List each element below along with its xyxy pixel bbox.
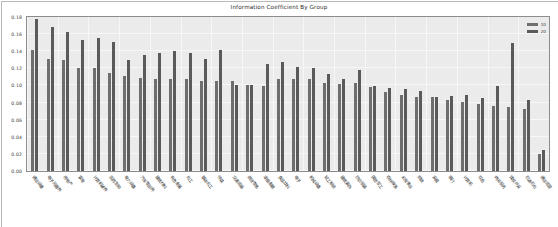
bar: [77, 68, 80, 171]
bar: [123, 76, 126, 171]
bar: [338, 84, 341, 171]
bar-group: [104, 17, 119, 171]
x-axis-tick: 传媒: [215, 175, 223, 184]
x-axis-tick-cell: 电力设备: [118, 173, 133, 211]
y-axis-tick: 0.10: [11, 83, 22, 88]
bar: [158, 53, 161, 171]
x-axis-tick-cell: 轻工制造: [319, 173, 334, 211]
bar: [281, 62, 284, 171]
bar: [296, 67, 299, 171]
bar: [435, 97, 438, 171]
bar: [246, 85, 249, 171]
bar: [354, 83, 357, 171]
bar: [527, 100, 530, 171]
y-axis-tick: 0.02: [11, 151, 22, 156]
bar: [465, 95, 468, 171]
bar: [127, 60, 130, 171]
bar: [477, 104, 480, 171]
bar: [185, 79, 188, 171]
bar: [511, 43, 514, 171]
bar-group: [273, 17, 288, 171]
chart-figure: Information Coefficient By Group 0.180.1…: [0, 0, 558, 227]
bar: [262, 86, 265, 171]
plot-area: [26, 16, 550, 172]
bar: [400, 95, 403, 171]
bar-group: [58, 17, 73, 171]
x-axis-tick-cell: 纺织服装: [350, 173, 365, 211]
x-axis-tick: 综合: [477, 175, 485, 184]
bar: [496, 86, 499, 171]
bar: [66, 32, 69, 171]
bar-group: [380, 17, 395, 171]
bar: [342, 79, 345, 171]
y-axis-tick-labels: 0.180.160.140.120.100.080.060.040.020.00: [0, 16, 24, 172]
bar: [231, 81, 234, 171]
x-axis-tick-cell: 家电: [72, 173, 87, 211]
x-axis-tick-cell: 非银金融: [257, 173, 272, 211]
bar: [47, 59, 50, 171]
x-axis-tick: 计算机: [462, 175, 473, 187]
bar-group: [488, 17, 503, 171]
gridline-vertical: [549, 17, 550, 171]
x-axis-tick-cell: 机械设备: [303, 173, 318, 211]
legend-label: 10: [541, 22, 546, 27]
x-axis-tick-cell: 交通运输: [226, 173, 241, 211]
bar-group: [196, 17, 211, 171]
bar: [200, 81, 203, 171]
x-axis-tick-cell: 煤炭开采: [504, 173, 519, 211]
bar-group: [73, 17, 88, 171]
bar: [369, 87, 372, 171]
y-axis-tick: 0.14: [11, 49, 22, 54]
bar: [51, 27, 54, 171]
x-axis-tick: 通信运营: [539, 175, 553, 190]
x-axis-tick-cell: 计算机硬件: [88, 173, 103, 211]
bar-group: [457, 17, 472, 171]
x-axis-tick-cell: 通信设备: [26, 173, 41, 211]
x-axis-tick-cell: 采掘: [427, 173, 442, 211]
x-axis-tick: 房地产: [61, 175, 72, 187]
bar: [404, 89, 407, 171]
bar: [189, 53, 192, 171]
y-axis-tick: 0.00: [11, 169, 22, 174]
bar: [327, 74, 330, 171]
bar-group: [242, 17, 257, 171]
bar-group: [442, 17, 457, 171]
x-axis-tick: 化工: [184, 175, 192, 184]
x-axis-tick-cell: 建筑装饰: [334, 173, 349, 211]
bar: [97, 38, 100, 171]
legend-item[interactable]: 20: [527, 29, 546, 34]
x-axis-tick: 银行: [446, 175, 454, 184]
bar-group: [227, 17, 242, 171]
bar: [312, 68, 315, 171]
y-axis-tick: 0.18: [11, 15, 22, 20]
bar: [81, 40, 84, 171]
bar-group: [319, 17, 334, 171]
bar: [415, 97, 418, 171]
legend-label: 20: [541, 29, 546, 34]
bar: [538, 154, 541, 171]
bar-group: [88, 17, 103, 171]
x-axis-tick: 钢铁: [416, 175, 424, 184]
bar: [235, 85, 238, 171]
bar: [143, 55, 146, 171]
legend-item[interactable]: 10: [527, 22, 546, 27]
x-axis-tick-cell: 房地产: [57, 173, 72, 211]
bar: [358, 70, 361, 171]
x-axis-tick-cell: 银行: [442, 173, 457, 211]
bar-group: [27, 17, 42, 171]
bar: [450, 96, 453, 171]
x-axis-tick-cell: 食品饮料: [273, 173, 288, 211]
legend-swatch-icon: [527, 30, 538, 33]
x-axis-tick-cell: 传媒: [211, 173, 226, 211]
bar: [542, 150, 545, 171]
x-axis-tick-cell: 化工: [180, 173, 195, 211]
x-axis-tick: 电子: [292, 175, 300, 184]
x-axis-tick-cell: 电子: [288, 173, 303, 211]
bar: [93, 68, 96, 171]
bar-group: [519, 17, 534, 171]
bar: [292, 79, 295, 171]
x-axis-tick-cell: 电子元器件: [41, 173, 56, 211]
bar: [173, 51, 176, 171]
bar-group: [411, 17, 426, 171]
x-axis-tick-cell: 通信运营: [534, 173, 549, 211]
